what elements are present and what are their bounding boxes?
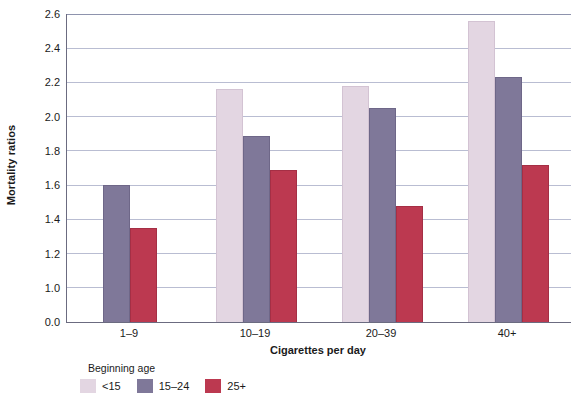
legend-label: <15 [102, 380, 121, 392]
legend-label: 15–24 [159, 380, 190, 392]
bar [243, 136, 270, 323]
x-tick-label: 10–19 [240, 327, 271, 339]
y-tick-label: 1.4 [20, 213, 60, 225]
bar [468, 21, 495, 322]
legend-items: <1515–2425+ [80, 379, 380, 393]
y-tick-label: 1.8 [20, 145, 60, 157]
bar [522, 165, 549, 322]
x-axis-title: Cigarettes per day [66, 344, 570, 356]
x-tick-label: 20–39 [366, 327, 397, 339]
bar-group [216, 14, 297, 322]
legend: Beginning age <1515–2425+ [80, 362, 380, 393]
y-tick-label: 2.2 [20, 76, 60, 88]
bar-group [342, 14, 423, 322]
bar-chart: Mortality ratios 0.01.01.21.41.61.82.02.… [0, 0, 574, 404]
legend-swatch [80, 379, 96, 393]
x-tick-label: 1–9 [120, 327, 138, 339]
y-tick-label: 1.2 [20, 248, 60, 260]
legend-item: <15 [80, 379, 121, 393]
legend-label: 25+ [227, 380, 246, 392]
y-axis-title: Mortality ratios [0, 0, 22, 330]
bar [396, 206, 423, 322]
legend-title: Beginning age [88, 362, 380, 374]
bar [103, 185, 130, 322]
y-axis-title-text: Mortality ratios [5, 125, 17, 205]
bar-group [103, 14, 157, 322]
legend-swatch [205, 379, 221, 393]
plot-area [66, 14, 571, 323]
legend-item: 15–24 [137, 379, 190, 393]
legend-swatch [137, 379, 153, 393]
y-tick-label: 2.6 [20, 8, 60, 20]
bar [495, 77, 522, 322]
bar [270, 170, 297, 322]
bar [342, 86, 369, 322]
legend-item: 25+ [205, 379, 246, 393]
y-tick-label: 2.0 [20, 111, 60, 123]
bars-layer [67, 14, 571, 322]
y-tick-label: 1.0 [20, 282, 60, 294]
y-tick-label: 2.4 [20, 42, 60, 54]
y-tick-label: 0.0 [20, 316, 60, 328]
y-tick-label: 1.6 [20, 179, 60, 191]
bar-group [468, 14, 549, 322]
bar [216, 89, 243, 322]
x-tick-label: 40+ [498, 327, 517, 339]
bar [130, 228, 157, 322]
bar [369, 108, 396, 322]
